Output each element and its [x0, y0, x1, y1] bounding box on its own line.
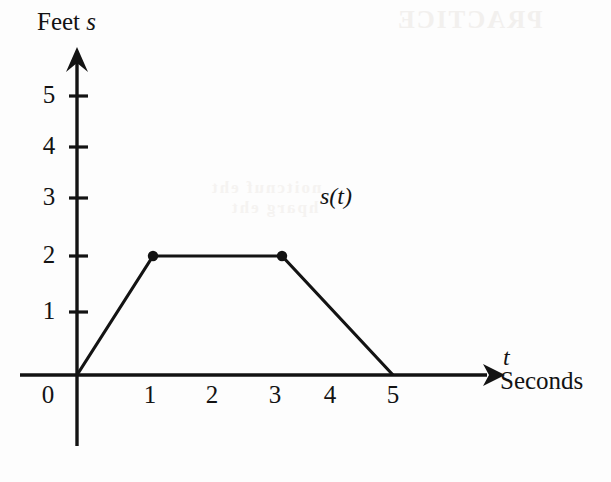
- y-tick-label-4: 4: [36, 132, 62, 160]
- origin-label: 0: [35, 381, 61, 409]
- curve-label: s(t): [320, 183, 352, 210]
- x-axis-title: Seconds: [500, 367, 583, 395]
- y-tick-label-1: 1: [36, 297, 62, 325]
- y-axis-title: Feet s: [37, 8, 96, 36]
- graph-svg: [0, 0, 611, 482]
- y-axis-quantity: Feet: [37, 8, 80, 35]
- x-tick-label-4: 4: [317, 381, 343, 409]
- data-point-marker-1-2: [148, 251, 158, 261]
- function-curve: [77, 251, 393, 375]
- x-tick-label-2: 2: [199, 381, 225, 409]
- y-axis: [66, 47, 88, 446]
- figure-canvas: PRACTICE noitcnuf eht hparg eht: [0, 0, 611, 482]
- data-point-marker-3-2: [277, 251, 287, 261]
- y-tick-label-2: 2: [36, 241, 62, 269]
- y-tick-label-3: 3: [36, 183, 62, 211]
- x-tick-label-5: 5: [380, 381, 406, 409]
- curve-label-text: s(t): [320, 183, 352, 209]
- x-tick-label-1: 1: [137, 381, 163, 409]
- y-tick-label-5: 5: [36, 81, 62, 109]
- y-axis-variable: s: [86, 8, 96, 35]
- x-tick-label-3: 3: [262, 381, 288, 409]
- curve-path: [77, 256, 393, 375]
